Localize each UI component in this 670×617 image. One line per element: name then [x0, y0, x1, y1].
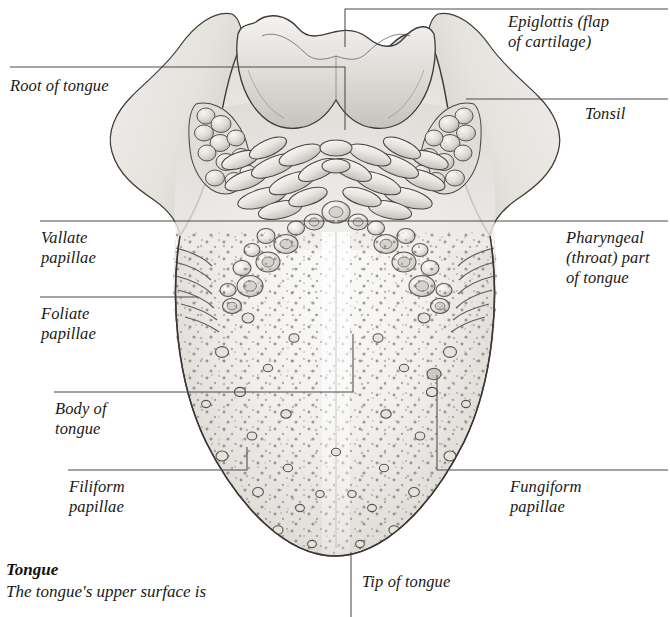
caption-title: Tongue: [6, 560, 58, 580]
tongue-outline-group: [110, 13, 560, 564]
label-pharyngeal-part: Pharyngeal (throat) part of tongue: [566, 228, 650, 288]
label-fungiform-papillae: Fungiform papillae: [510, 477, 581, 517]
caption-body: The tongue's upper surface is: [6, 582, 206, 602]
leader-epiglottis: [345, 9, 668, 47]
label-tip-of-tongue: Tip of tongue: [362, 572, 450, 592]
label-foliate-papillae: Foliate papillae: [41, 304, 96, 344]
label-root-of-tongue: Root of tongue: [10, 76, 109, 96]
label-tonsil: Tonsil: [585, 104, 625, 124]
tongue-body-surface: [170, 222, 504, 564]
label-filiform-papillae: Filiform papillae: [69, 477, 125, 517]
label-vallate-papillae: Vallate papillae: [41, 228, 96, 268]
figure-canvas: Epiglottis (flap of cartilage) Root of t…: [0, 0, 670, 617]
label-body-of-tongue: Body of tongue: [55, 399, 107, 439]
label-epiglottis: Epiglottis (flap of cartilage): [508, 12, 609, 52]
